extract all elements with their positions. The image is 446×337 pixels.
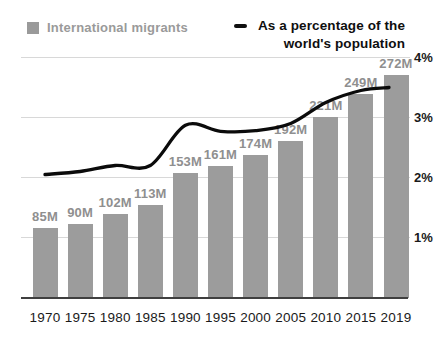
plot-area: 1%2%3%4%85M197090M1975102M1980113M198515… [0, 0, 446, 337]
trend-line [0, 0, 446, 337]
percentage-line [45, 88, 389, 175]
migrants-chart: International migrants As a percentage o… [0, 0, 446, 337]
